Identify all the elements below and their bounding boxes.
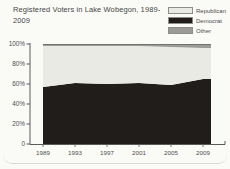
y-tick-label: 0 <box>21 140 25 147</box>
y-tick-label: 20% <box>12 120 25 127</box>
stacked-area-chart: 100%80%60%40%20%019891993199720012005200… <box>0 0 230 169</box>
area-democrat <box>43 79 211 144</box>
y-tick-label: 80% <box>12 60 25 67</box>
scan-edge-artifact <box>3 155 227 164</box>
y-tick-label: 60% <box>12 80 25 87</box>
area-republican <box>43 46 211 87</box>
y-tick-label: 100% <box>9 40 26 47</box>
y-tick-label: 40% <box>12 100 25 107</box>
